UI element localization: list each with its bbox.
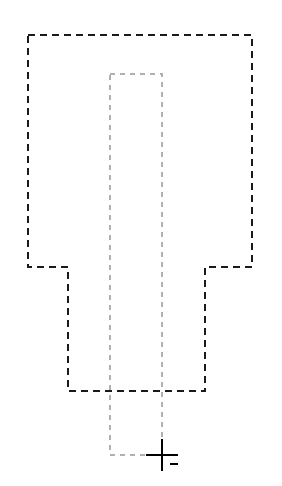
drawing-canvas[interactable] <box>0 0 282 486</box>
canvas-background <box>0 0 282 486</box>
drawing-surface[interactable] <box>0 0 282 486</box>
